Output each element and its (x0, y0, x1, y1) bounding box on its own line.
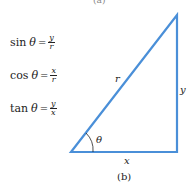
triangle-outline (71, 15, 177, 152)
right-triangle (0, 0, 193, 194)
figure-caption: (b) (117, 171, 131, 182)
angle-arc (86, 133, 93, 152)
adjacent-side-label: x (124, 155, 130, 166)
opposite-side-label: y (180, 84, 186, 95)
angle-label: θ (96, 134, 102, 145)
hypotenuse-label: r (115, 73, 120, 84)
